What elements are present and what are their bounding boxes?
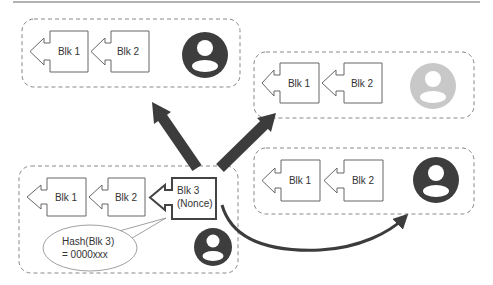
block-label: Blk 3 [177,185,200,196]
node-top-right: Blk 1 Blk 2 [254,52,474,118]
block-2: Blk 2 [89,178,145,216]
block-1: Blk 1 [30,31,88,72]
hash-formula: Hash(Blk 3) [62,236,114,247]
block-1: Blk 1 [27,178,86,216]
user-light-icon [410,63,456,109]
hash-result: = 0000xxx [62,249,108,260]
block-1: Blk 1 [262,160,320,201]
node-top-left: Blk 1 Blk 2 [22,19,240,87]
node-bottom-right: Blk 1 Blk 2 [254,148,474,214]
block-label: Blk 1 [289,175,312,186]
blockchain-diagram: Blk 1 Blk 2 Blk 1 Blk 2 [0,0,493,285]
block-2: Blk 2 [324,160,383,201]
block-1: Blk 1 [262,63,319,103]
block-nonce-label: (Nonce) [177,198,213,209]
user-dark-icon [413,157,459,203]
block-label: Blk 1 [58,46,81,57]
node-bottom-left: Blk 1 Blk 2 Blk 3 (Nonce) Hash(Blk 3) = … [19,166,238,273]
block-label: Blk 2 [117,46,140,57]
user-dark-icon [194,228,232,266]
broadcast-arrow-top-left [152,102,197,168]
hash-callout: Hash(Blk 3) = 0000xxx [43,218,166,271]
broadcast-arrow-bottom-right [222,205,404,250]
block-label: Blk 2 [351,78,374,89]
block-2: Blk 2 [322,63,382,103]
block-label: Blk 1 [55,192,78,203]
block-2: Blk 2 [91,31,149,72]
block-label: Blk 1 [288,78,311,89]
broadcast-arrow-top-right [220,113,276,168]
user-dark-icon [182,32,228,78]
block-label: Blk 2 [352,175,375,186]
block-3-nonce: Blk 3 (Nonce) [150,178,216,219]
block-label: Blk 2 [115,192,138,203]
